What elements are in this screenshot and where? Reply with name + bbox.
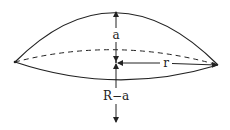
diagram-canvas: a r R−a bbox=[0, 0, 230, 130]
label-lower-distance: R−a bbox=[103, 89, 129, 103]
spherical-cap-diagram: a r R−a bbox=[0, 0, 230, 130]
left-rim-point bbox=[14, 61, 17, 64]
radius-arrow-right bbox=[172, 64, 217, 66]
label-height-a: a bbox=[112, 28, 119, 42]
center-point bbox=[115, 61, 117, 63]
label-radius-r: r bbox=[163, 56, 169, 70]
